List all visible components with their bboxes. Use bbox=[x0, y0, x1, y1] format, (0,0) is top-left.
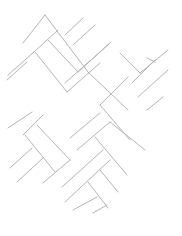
plank-edge-line bbox=[100, 170, 118, 192]
plank-edge-line bbox=[147, 97, 163, 110]
plank-edge-line bbox=[34, 30, 58, 52]
plank-edge-line bbox=[35, 52, 67, 92]
plank-edge-line bbox=[93, 205, 107, 213]
plank-edge-line bbox=[88, 72, 128, 110]
plank-edge-line bbox=[8, 112, 32, 128]
plank-edge-line bbox=[120, 53, 140, 73]
plank-edge-line bbox=[65, 160, 110, 202]
plank-edge-line bbox=[62, 150, 103, 187]
herringbone-diagram bbox=[0, 0, 182, 236]
plank-edge-line bbox=[65, 18, 83, 35]
plank-edge-line bbox=[7, 62, 27, 80]
herringbone-lines bbox=[7, 15, 168, 213]
plank-edge-line bbox=[43, 160, 70, 183]
plank-edge-line bbox=[37, 125, 70, 160]
plank-edge-line bbox=[73, 25, 95, 45]
plank-edge-line bbox=[140, 50, 168, 73]
plank-edge-line bbox=[23, 15, 45, 43]
plank-edge-line bbox=[88, 182, 108, 208]
plank-edge-line bbox=[17, 158, 43, 182]
plank-edge-line bbox=[10, 148, 32, 168]
plank-edge-line bbox=[25, 135, 55, 172]
plank-edge-line bbox=[8, 52, 34, 75]
plank-edge-line bbox=[138, 70, 168, 97]
plank-edge-line bbox=[100, 77, 128, 105]
plank-edge-line bbox=[110, 122, 145, 150]
plank-edge-line bbox=[77, 122, 110, 150]
plank-edge-line bbox=[100, 105, 130, 140]
plank-edge-line bbox=[23, 115, 43, 135]
plank-edge-line bbox=[73, 197, 97, 210]
